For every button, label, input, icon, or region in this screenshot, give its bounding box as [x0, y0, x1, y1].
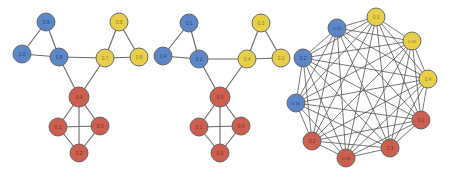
graph-node[interactable]: 0.25: [328, 19, 346, 37]
graph-node[interactable]: 0.2: [272, 49, 290, 67]
graph-node[interactable]: 0.15: [287, 94, 305, 112]
node-circle[interactable]: [210, 87, 230, 107]
graph-node[interactable]: 0.1: [190, 118, 208, 136]
graph-node[interactable]: 0.2: [211, 144, 229, 162]
node-circle[interactable]: [367, 8, 385, 26]
node-circle[interactable]: [190, 118, 208, 136]
node-circle[interactable]: [272, 49, 290, 67]
node-circle[interactable]: [419, 70, 437, 88]
graph-node[interactable]: 0.28: [337, 149, 355, 167]
node-circle[interactable]: [96, 49, 114, 67]
graph-node[interactable]: 0.2: [70, 144, 88, 162]
graph-node[interactable]: 0.4: [154, 47, 172, 65]
graph-node[interactable]: 0.4: [419, 70, 437, 88]
node-circle[interactable]: [130, 48, 148, 66]
graph-node[interactable]: 0.2: [412, 111, 430, 129]
graph-node[interactable]: 0.2: [294, 49, 312, 67]
graph-node[interactable]: 1.0: [13, 45, 31, 63]
node-circle[interactable]: [69, 87, 89, 107]
graph-node[interactable]: 0.4: [69, 87, 89, 107]
node-circle[interactable]: [294, 49, 312, 67]
node-circle[interactable]: [180, 14, 198, 32]
node-circle[interactable]: [50, 48, 68, 66]
graph-node[interactable]: 0.3: [210, 87, 230, 107]
node-circle[interactable]: [403, 32, 421, 50]
graph-node[interactable]: 0.6: [130, 48, 148, 66]
node-circle[interactable]: [110, 13, 128, 31]
graph-figure: 0.91.00.80.50.70.60.40.10.30.2 0.10.40.2…: [0, 0, 450, 172]
node-circle[interactable]: [412, 111, 430, 129]
graph-node[interactable]: 0.1: [180, 14, 198, 32]
node-circle[interactable]: [232, 117, 250, 135]
node-circle[interactable]: [190, 50, 208, 68]
node-circle[interactable]: [70, 144, 88, 162]
node-circle[interactable]: [238, 50, 256, 68]
node-circle[interactable]: [381, 139, 399, 157]
node-circle[interactable]: [37, 13, 55, 31]
graph-node[interactable]: 0.1: [49, 118, 67, 136]
node-circle[interactable]: [287, 94, 305, 112]
node-circle[interactable]: [154, 47, 172, 65]
graph-node[interactable]: 0.8: [50, 48, 68, 66]
node-circle[interactable]: [303, 132, 321, 150]
graph-node[interactable]: 0.2: [303, 132, 321, 150]
node-circle[interactable]: [49, 118, 67, 136]
node-circle[interactable]: [328, 19, 346, 37]
graph-node[interactable]: 0.3: [91, 117, 109, 135]
graph-node[interactable]: 0.4: [232, 117, 250, 135]
node-circle[interactable]: [13, 45, 31, 63]
node-circle[interactable]: [91, 117, 109, 135]
node-circle[interactable]: [337, 149, 355, 167]
graph-node[interactable]: 0.3: [367, 8, 385, 26]
graph-node[interactable]: 0.45: [403, 32, 421, 50]
graph-node[interactable]: 0.9: [37, 13, 55, 31]
graph-node[interactable]: 0.5: [110, 13, 128, 31]
graph-node[interactable]: 0.2: [190, 50, 208, 68]
node-circle[interactable]: [252, 14, 270, 32]
graph-node[interactable]: 0.3: [252, 14, 270, 32]
node-circle[interactable]: [211, 144, 229, 162]
graph-node[interactable]: 0.3: [381, 139, 399, 157]
graph-node[interactable]: 0.4: [238, 50, 256, 68]
graph-node[interactable]: 0.7: [96, 49, 114, 67]
